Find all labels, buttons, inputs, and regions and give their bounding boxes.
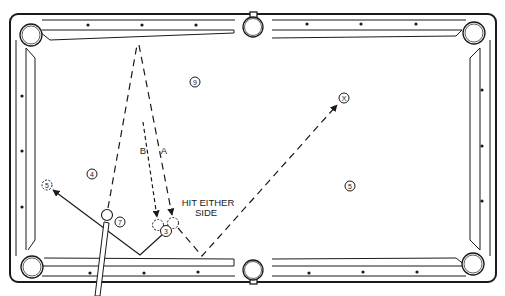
path-b-label: B xyxy=(140,145,146,156)
path-cue-to-rail xyxy=(108,45,137,208)
pocket-top-left xyxy=(20,24,42,46)
ball-4-label: 4 xyxy=(90,171,94,178)
table-frame xyxy=(10,14,496,282)
pocket-bottom-right xyxy=(462,253,484,275)
path-3-to-x xyxy=(178,105,337,256)
ghost-balls xyxy=(42,180,179,231)
pockets xyxy=(20,12,485,284)
ball-5-label: 5 xyxy=(348,183,352,190)
rail-diamonds xyxy=(20,22,483,274)
pocket-bottom-left xyxy=(21,256,43,278)
pocket-bottom-side xyxy=(243,260,263,284)
pool-table-diagram: 9 X 4 5 7 3 5 B A HIT EITHER SIDE xyxy=(0,0,505,296)
ball-9-label: 9 xyxy=(193,79,197,86)
note-line-2: SIDE xyxy=(195,207,217,218)
pocket-top-side xyxy=(243,12,263,37)
cushions xyxy=(26,30,480,266)
target-x-label: X xyxy=(342,95,347,102)
cue-ball xyxy=(102,210,113,221)
path-a-label: A xyxy=(161,145,168,156)
path-b xyxy=(143,122,157,217)
ghost-5-label: 5 xyxy=(45,182,49,189)
pocket-top-right xyxy=(463,22,485,44)
annotations: B A HIT EITHER SIDE xyxy=(140,145,235,218)
ball-7-label: 7 xyxy=(118,219,122,226)
cue-stick xyxy=(95,222,109,296)
ball-3-label: 3 xyxy=(164,228,168,235)
